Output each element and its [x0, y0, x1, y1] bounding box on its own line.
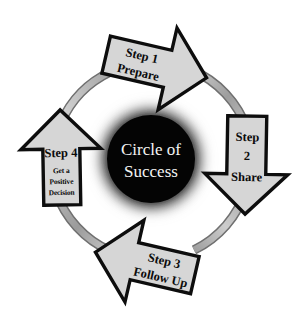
- step-2-title: Share: [231, 170, 263, 185]
- step-4-arrow[interactable]: Step 4 Get a Positive Decision: [20, 109, 102, 205]
- circle-of-success-hub: Circle of Success: [93, 101, 209, 217]
- step-4-subtitle-line1: Get a: [53, 166, 70, 175]
- step-4-subtitle-line2: Positive: [49, 177, 74, 186]
- step-4-subtitle-line3: Decision: [49, 188, 75, 197]
- hub-label-line2: Success: [124, 162, 178, 181]
- step-2-arrow[interactable]: Step 2 Share: [204, 115, 289, 214]
- step-3-arrow-shape: [86, 211, 204, 316]
- hub-circle: [107, 115, 195, 203]
- step-2-number-line2: 2: [244, 149, 250, 163]
- hub-label-line1: Circle of: [121, 140, 181, 159]
- step-2-number: Step: [235, 130, 259, 144]
- diagram-canvas: Circle of Success Step 1 Prepare Step 2 …: [0, 0, 303, 320]
- step-4-number: Step 4: [44, 146, 78, 161]
- circle-of-success-diagram: Circle of Success Step 1 Prepare Step 2 …: [0, 0, 303, 320]
- step-3-arrow[interactable]: Step 3 Follow Up: [86, 211, 204, 316]
